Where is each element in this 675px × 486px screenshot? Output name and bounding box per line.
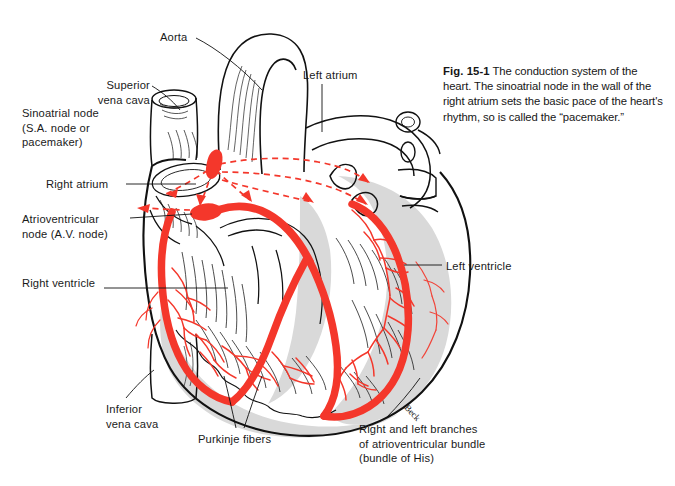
label-inferior-vena-cava: Inferior vena cava [106, 402, 158, 431]
figure-caption: Fig. 15-1 The conduction system of the h… [443, 64, 665, 125]
label-superior-vena-cava: Superior vena cava [62, 78, 150, 107]
impulse-spread-arrows [166, 158, 368, 204]
superior-vena-cava [151, 90, 198, 166]
artist-signature: Beck [403, 403, 423, 424]
label-aorta: Aorta [160, 30, 188, 45]
label-bundle-branches: Right and left branches of atrioventricu… [359, 422, 485, 466]
pulmonary-veins [396, 112, 440, 212]
label-sinoatrial-node: Sinoatrial node (S.A. node or pacemaker) [22, 106, 99, 150]
impulse-arrow-left [148, 208, 190, 210]
label-left-ventricle: Left ventricle [446, 259, 512, 274]
label-atrioventricular-node: Atrioventricular node (A.V. node) [22, 212, 108, 241]
aorta [218, 34, 307, 174]
label-left-atrium: Left atrium [303, 68, 358, 83]
left-atrium [306, 116, 430, 216]
label-right-atrium: Right atrium [46, 177, 108, 192]
figure-page: Beck Fig. 15-1 The conduction system of … [0, 0, 675, 486]
figure-number: Fig. 15-1 [443, 65, 490, 77]
label-right-ventricle: Right ventricle [22, 276, 95, 291]
aorta-shading [228, 66, 259, 162]
label-purkinje-fibers: Purkinje fibers [198, 432, 271, 447]
